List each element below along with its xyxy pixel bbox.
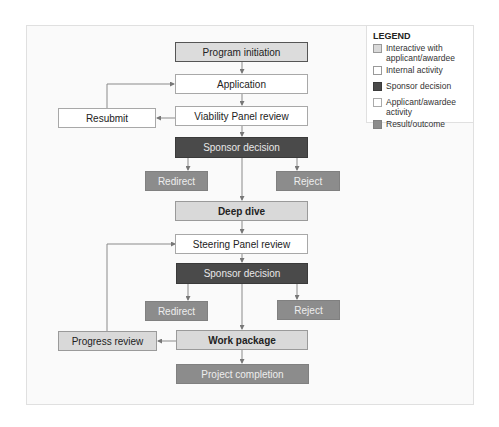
node-reject-2: Reject [277,300,340,320]
legend: LEGEND Interactive with applicant/awarde… [366,25,474,123]
swatch-sponsor-icon [373,82,382,91]
node-deep-dive: Deep dive [175,201,308,221]
legend-item-interactive: Interactive with applicant/awardee [373,43,467,63]
swatch-applicant-icon [373,98,382,107]
node-redirect-1: Redirect [145,171,208,191]
node-reject-1: Reject [276,171,340,191]
legend-label: Result/outcome [386,119,445,129]
node-project-completion: Project completion [176,364,309,384]
swatch-result-icon [373,120,382,129]
legend-item-sponsor: Sponsor decision [373,81,467,91]
legend-label: Internal activity [386,65,443,75]
node-label: Reject [294,305,322,316]
swatch-internal-icon [373,66,382,75]
node-label: Steering Panel review [193,239,290,250]
node-program-initiation: Program initiation [175,42,308,62]
node-viability-panel-review: Viability Panel review [175,106,308,126]
node-sponsor-decision-1: Sponsor decision [175,137,308,158]
legend-title: LEGEND [373,31,467,41]
node-label: Reject [294,176,322,187]
node-label: Sponsor decision [203,142,280,153]
node-label: Application [217,79,266,90]
node-progress-review: Progress review [58,331,157,351]
node-label: Viability Panel review [194,111,288,122]
legend-item-internal: Internal activity [373,65,467,75]
node-steering-panel-review: Steering Panel review [175,234,308,254]
node-resubmit: Resubmit [58,108,156,128]
node-work-package: Work package [176,330,308,350]
node-label: Progress review [72,336,144,347]
node-redirect-2: Redirect [145,301,208,321]
node-label: Resubmit [86,113,128,124]
node-label: Work package [208,335,276,346]
node-label: Sponsor decision [204,268,281,279]
legend-item-applicant: Applicant/awardee activity [373,97,467,117]
node-label: Project completion [201,369,283,380]
node-application: Application [175,74,308,94]
node-label: Program initiation [203,47,281,58]
node-sponsor-decision-2: Sponsor decision [176,263,308,284]
node-label: Deep dive [218,206,265,217]
legend-label: Interactive with applicant/awardee [386,43,467,63]
node-label: Redirect [158,176,195,187]
legend-label: Applicant/awardee activity [386,97,467,117]
legend-item-result: Result/outcome [373,119,467,129]
swatch-interactive-icon [373,44,382,53]
legend-label: Sponsor decision [386,81,451,91]
node-label: Redirect [158,306,195,317]
